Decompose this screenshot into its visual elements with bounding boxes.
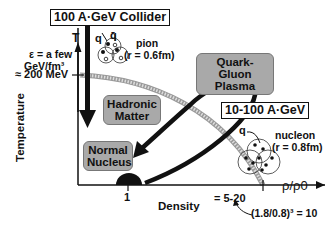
collider-energy-box: 100 A·GeV Collider [50, 9, 170, 26]
x-tick-1-label: 1 [124, 191, 130, 203]
hadronic-label-1: Hadronic [107, 98, 157, 110]
nucleon-radius-label: (r = 0.8fm) [272, 141, 322, 153]
nucleus-label-1: Normal [87, 144, 129, 156]
collider-arrowhead [79, 110, 96, 128]
qgp-label-2: Plasma [200, 80, 270, 92]
pion-radius-label: (r = 0.6fm) [124, 49, 174, 61]
y-axis-symbol: T [72, 31, 79, 45]
x-axis-label: Density [158, 200, 200, 212]
x-axis-symbol: ρ/ρ0 [282, 178, 308, 193]
pion-label: pion [136, 37, 158, 49]
energy-density-label-1: ε = a few [29, 48, 72, 60]
hadronic-label-2: Matter [107, 110, 157, 122]
fixed-target-energy-box: 10-100 A·GeV [221, 102, 309, 119]
qgp-label-1: Quark-Gluon [200, 56, 270, 80]
x-tick-2-label: = 5-20 [214, 192, 246, 204]
y-axis-label: Temperature [14, 93, 26, 162]
nucleon-label: nucleon [275, 129, 315, 141]
region-quark-gluon-plasma: Quark-Gluon Plasma [196, 53, 274, 95]
x-axis-arrowhead [316, 181, 325, 189]
region-hadronic-matter: Hadronic Matter [103, 95, 161, 125]
nucleus-label-2: Nucleus [87, 156, 129, 168]
nucleon-quark-label: q [239, 124, 246, 136]
temp-mark-label: ≈ 200 MeV [15, 68, 68, 80]
region-normal-nucleus: Normal Nucleus [83, 141, 133, 171]
ratio-formula: (1.8/0.8)³ = 10 [251, 207, 317, 219]
pion-quark-label: q [95, 32, 102, 44]
nucleus-dot [116, 173, 142, 185]
collider-arrow-shaft [85, 22, 90, 114]
pion-antiquark-label: q̄ [110, 29, 117, 41]
